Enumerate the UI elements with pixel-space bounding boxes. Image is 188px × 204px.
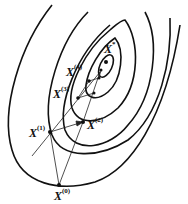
label-x0: X(0) <box>54 190 70 202</box>
point-x5 <box>93 92 96 95</box>
point-x2 <box>81 120 85 124</box>
point-x0 <box>57 183 61 187</box>
label-x2: X(2) <box>87 119 103 131</box>
contour-lines <box>8 5 180 186</box>
point-x3 <box>76 96 80 100</box>
point-x4 <box>87 79 91 83</box>
point-x1 <box>48 130 52 134</box>
diagram-canvas: X(0) X(1) X(2) X(3) X(4) X* <box>0 0 188 204</box>
label-x1: X(1) <box>29 127 45 139</box>
label-x3: X(3) <box>53 88 69 100</box>
contour-1 <box>8 5 180 186</box>
label-xstar: X* <box>104 43 116 55</box>
label-x4: X(4) <box>66 66 82 78</box>
point-x7 <box>100 69 103 72</box>
contour-plot <box>0 0 188 204</box>
point-xstar <box>104 60 108 64</box>
point-x6 <box>98 77 101 80</box>
